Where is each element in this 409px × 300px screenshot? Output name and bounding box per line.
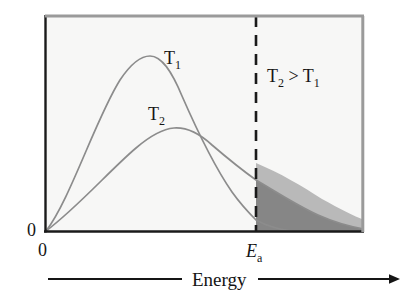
energy-axis-label: Energy bbox=[192, 269, 247, 290]
y-axis-origin-label: 0 bbox=[27, 220, 36, 240]
maxwell-boltzmann-figure: T1 T2 T2 > T1 0 0 Ea Energy bbox=[0, 0, 409, 300]
distribution-chart: T1 T2 T2 > T1 0 0 Ea Energy bbox=[0, 0, 409, 300]
x-axis-origin-label: 0 bbox=[38, 240, 47, 260]
